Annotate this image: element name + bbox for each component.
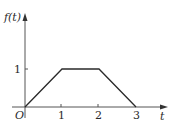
origin-label: O (15, 110, 24, 121)
y-tick-label-1: 1 (14, 64, 21, 75)
y-axis-label: f(t) (4, 12, 21, 23)
x-axis-arrow-icon (160, 105, 168, 110)
x-tick-label-1: 1 (58, 110, 65, 121)
y-axis-arrow-icon (23, 13, 28, 21)
trapezoid-plot (0, 0, 174, 131)
x-axis-label: t (160, 111, 164, 122)
x-tick-label-2: 2 (95, 110, 102, 121)
x-tick-label-3: 3 (133, 110, 140, 121)
function-line (25, 69, 136, 107)
